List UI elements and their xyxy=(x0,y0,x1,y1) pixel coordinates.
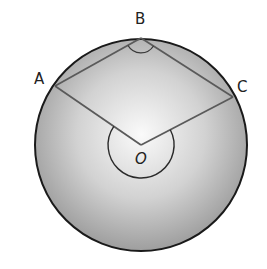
circle-diagram: B A C O xyxy=(0,0,267,269)
diagram-canvas xyxy=(0,0,267,269)
label-o: O xyxy=(135,152,147,167)
label-a: A xyxy=(34,72,44,87)
label-b: B xyxy=(135,12,145,27)
label-c: C xyxy=(237,80,247,95)
